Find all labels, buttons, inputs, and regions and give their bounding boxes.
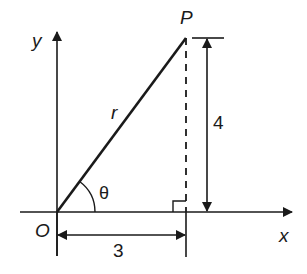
point-label: P (180, 7, 193, 28)
angle-arc (80, 182, 95, 213)
height-label: 4 (213, 112, 224, 133)
hypotenuse-line (57, 38, 186, 212)
right-angle-marker (173, 201, 186, 212)
y-axis-label: y (30, 30, 43, 51)
polar-diagram: y x O P r θ 4 3 (0, 0, 307, 274)
origin-label: O (35, 220, 50, 241)
hypotenuse-label: r (111, 102, 118, 123)
angle-label: θ (99, 183, 109, 203)
x-axis-label: x (278, 225, 290, 246)
base-label: 3 (113, 240, 124, 261)
